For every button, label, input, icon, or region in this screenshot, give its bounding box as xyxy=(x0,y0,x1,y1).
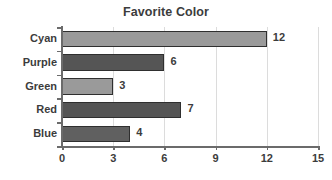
x-tick-label-6: 6 xyxy=(161,152,167,164)
bar-green[interactable] xyxy=(62,78,113,95)
bar-value-red: 7 xyxy=(187,102,193,114)
bar-value-cyan: 12 xyxy=(273,31,285,43)
y-axis-label-red: Red xyxy=(0,103,57,115)
y-axis-label-blue: Blue xyxy=(0,127,57,139)
bar-chart-figure: Favorite Color 126374 CyanPurpleGreenRed… xyxy=(0,0,332,180)
bar-row: 3 xyxy=(62,75,318,99)
y-axis-line xyxy=(61,26,63,147)
plot-area: 126374 xyxy=(62,27,318,146)
y-axis-label-purple: Purple xyxy=(0,56,57,68)
x-tick-mark-3 xyxy=(113,146,115,150)
y-axis-label-cyan: Cyan xyxy=(0,32,57,44)
x-tick-mark-9 xyxy=(216,146,218,150)
x-tick-label-12: 12 xyxy=(261,152,273,164)
bar-row: 7 xyxy=(62,98,318,122)
x-tick-mark-12 xyxy=(267,146,269,150)
bar-row: 12 xyxy=(62,27,318,51)
x-tick-label-9: 9 xyxy=(213,152,219,164)
y-axis-labels: CyanPurpleGreenRedBlue xyxy=(0,27,57,146)
x-tick-label-3: 3 xyxy=(110,152,116,164)
y-tick-mark xyxy=(57,51,61,53)
bar-blue[interactable] xyxy=(62,126,130,143)
bar-value-purple: 6 xyxy=(170,55,176,67)
bar-red[interactable] xyxy=(62,102,181,119)
x-tick-mark-0 xyxy=(62,146,64,150)
y-tick-mark xyxy=(57,122,61,124)
gridline-15 xyxy=(318,27,319,146)
x-tick-mark-6 xyxy=(164,146,166,150)
x-tick-label-15: 15 xyxy=(312,152,324,164)
x-tick-mark-15 xyxy=(318,146,320,150)
bar-value-blue: 4 xyxy=(136,126,142,138)
bar-row: 4 xyxy=(62,122,318,146)
x-tick-label-0: 0 xyxy=(59,152,65,164)
y-tick-mark xyxy=(57,98,61,100)
bar-purple[interactable] xyxy=(62,54,164,71)
y-axis-label-green: Green xyxy=(0,80,57,92)
bar-value-green: 3 xyxy=(119,79,125,91)
bar-row: 6 xyxy=(62,51,318,75)
y-tick-mark xyxy=(57,146,61,148)
bar-cyan[interactable] xyxy=(62,31,267,48)
y-tick-mark xyxy=(57,27,61,29)
chart-title: Favorite Color xyxy=(0,5,332,19)
y-tick-mark xyxy=(57,75,61,77)
x-axis-ticks: 03691215 xyxy=(62,146,318,168)
